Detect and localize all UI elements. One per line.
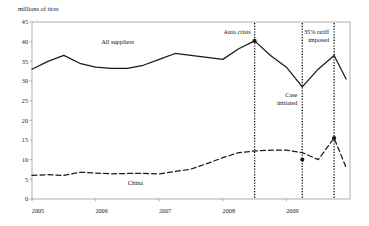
y-tick-label: 25 [22,97,28,104]
event-annotation-text: 35% tariff [304,28,330,35]
x-tick-label: 2009 [286,207,298,214]
x-tick-label: 2005 [32,207,44,214]
x-tick-label: 2008 [223,207,235,214]
y-tick-label: 20 [22,117,28,124]
event-annotation-text: initiated [277,99,298,106]
chart-container: millions of tires05101520253035404520052… [0,0,369,226]
y-tick-label: 5 [25,176,28,183]
event-data-point [332,136,336,140]
event-annotation-text: imposed [308,36,330,43]
event-annotation: 35% tariffimposed [304,28,330,43]
event-annotation: Auto crisis [224,28,252,35]
event-annotation-text: Auto crisis [224,28,252,35]
event-data-point [300,158,304,162]
event-annotation-text: Case [285,91,297,98]
y-tick-label: 15 [22,136,28,143]
series-label-china: China [128,179,143,186]
y-tick-label: 45 [22,18,28,25]
y-tick-label: 30 [22,77,28,84]
y-tick-label: 40 [22,38,28,45]
series-label-all-suppliers: All suppliers [101,38,134,45]
y-tick-label: 0 [25,195,28,202]
y-axis-label: millions of tires [18,5,59,12]
event-data-point [253,39,257,43]
y-tick-label: 10 [22,156,28,163]
x-tick-label: 2007 [159,207,171,214]
x-tick-label: 2006 [95,207,107,214]
y-tick-label: 35 [22,58,28,65]
tire-imports-line-chart: millions of tires05101520253035404520052… [0,0,369,226]
